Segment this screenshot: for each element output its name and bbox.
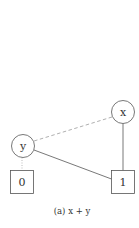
node-x: x: [112, 101, 135, 124]
terminal-0: 0: [11, 171, 34, 194]
node-y-label: y: [19, 140, 27, 153]
terminal-0-label: 0: [19, 176, 26, 189]
terminal-1: 1: [112, 171, 135, 194]
node-x-label: x: [120, 106, 127, 119]
bdd-diagram: x y 0 1 (a) x + y: [0, 0, 139, 228]
edge-y-to-1-high: [34, 150, 112, 179]
node-y: y: [12, 135, 35, 158]
terminal-1-label: 1: [120, 176, 127, 189]
edge-x-to-y-low: [34, 117, 112, 141]
diagram-caption: (a) x + y: [54, 206, 91, 216]
